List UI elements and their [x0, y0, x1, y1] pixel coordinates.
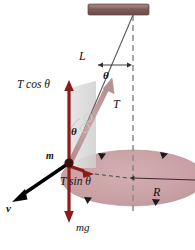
conical-pendulum-diagram	[0, 0, 195, 250]
weight-label: mg	[76, 222, 89, 233]
mass-dot	[64, 158, 73, 167]
length-label: L	[79, 50, 86, 62]
angle-arrow-left	[98, 63, 103, 68]
radius-label: R	[153, 186, 160, 198]
tension-horizontal-label: T sin θ	[60, 176, 91, 188]
velocity-label: v	[6, 203, 11, 214]
top-angle-label: θ	[103, 70, 109, 81]
tcos-arrowhead	[64, 80, 74, 91]
ceiling-support	[88, 4, 149, 15]
velocity-arrowhead	[12, 189, 28, 202]
mass-label: m	[46, 151, 54, 161]
top-angle-indicator	[98, 63, 132, 68]
ceiling-bar-highlight	[90, 5, 148, 7]
angle-arrow-right	[127, 63, 132, 68]
mass-point	[64, 158, 73, 167]
tension-vertical-label: T cos θ	[17, 79, 50, 91]
tension-label: T	[113, 98, 120, 110]
body-angle-label: θ	[71, 126, 77, 137]
mg-arrowhead	[64, 211, 74, 223]
